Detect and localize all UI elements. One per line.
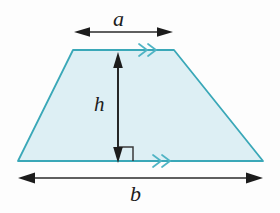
label-height-h: h (94, 94, 105, 115)
trapezoid-shape (18, 50, 263, 161)
label-side-a: a (113, 8, 124, 30)
label-side-b: b (130, 183, 141, 205)
trapezoid-figure: a b h (0, 0, 280, 213)
